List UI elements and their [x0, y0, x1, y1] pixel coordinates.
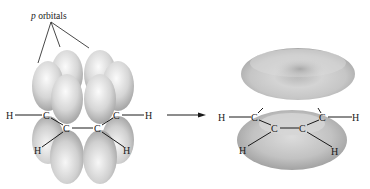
butadiene-orbital-diagram: p orbitals H C C C C — [0, 0, 370, 189]
pi-cloud-top-hole — [274, 58, 326, 80]
atom-c3: C — [94, 123, 101, 134]
atom-h-right: H — [145, 110, 152, 121]
lobe-bottom-c3 — [83, 130, 117, 184]
atom-h-left: H — [218, 112, 225, 123]
atom-h-c2: H — [239, 145, 246, 156]
lobe-top-c2 — [51, 74, 83, 124]
leader-line-1 — [38, 22, 51, 63]
atom-h-c3: H — [331, 146, 338, 157]
atom-c4: C — [319, 112, 326, 123]
atom-c1: C — [43, 110, 50, 121]
atom-c4: C — [113, 110, 120, 121]
arrowhead-icon — [198, 113, 206, 118]
reaction-arrow — [167, 113, 206, 118]
leader-line-3 — [51, 22, 89, 48]
atom-c2: C — [271, 123, 278, 134]
svg-text:p orbitals: p orbitals — [30, 11, 67, 21]
atom-h-c2: H — [34, 145, 41, 156]
atom-c3: C — [299, 123, 306, 134]
atom-h-c3: H — [123, 145, 130, 156]
atom-c2: C — [63, 123, 70, 134]
atom-h-left: H — [6, 110, 13, 121]
atom-h-right: H — [352, 112, 359, 123]
lobe-top-c3 — [84, 74, 116, 124]
atom-c1: C — [251, 112, 258, 123]
leader-line-2 — [51, 22, 60, 47]
label-text: orbitals — [36, 11, 67, 21]
